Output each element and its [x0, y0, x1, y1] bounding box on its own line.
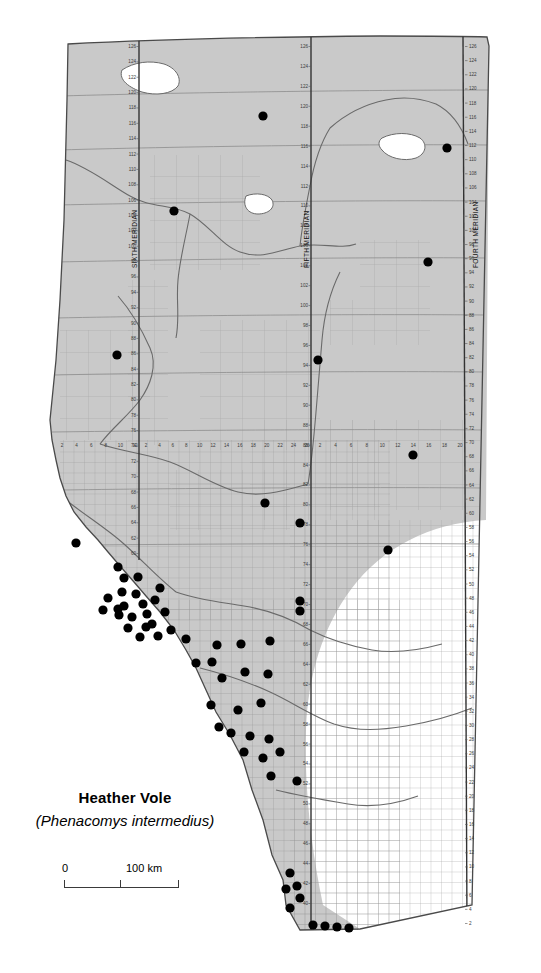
occurrence-dot: [113, 604, 122, 613]
occurrence-dot: [236, 639, 245, 648]
occurrence-dot: [332, 922, 341, 931]
township-number: 52: [303, 781, 309, 786]
township-number: 66: [303, 642, 309, 647]
township-number: 62: [469, 497, 475, 502]
township-number: 28: [469, 737, 475, 742]
township-number: 110: [469, 157, 477, 162]
occurrence-dot: [142, 609, 151, 618]
township-number: 86: [131, 351, 137, 356]
occurrence-dot: [191, 658, 200, 667]
occurrence-dot: [258, 753, 267, 762]
township-number: 8: [469, 879, 472, 884]
township-number: 104: [469, 200, 477, 205]
township-number: 108: [300, 223, 308, 228]
township-number: 46: [469, 610, 475, 615]
township-number: 12: [469, 850, 475, 855]
township-number: 106: [128, 198, 136, 203]
township-number: 54: [303, 761, 309, 766]
township-number: 96: [303, 343, 309, 348]
occurrence-dot: [119, 573, 128, 582]
township-number: 68: [469, 454, 475, 459]
occurrence-dot: [423, 257, 432, 266]
range-number: 8: [185, 443, 188, 448]
township-number: 84: [469, 341, 475, 346]
township-number: 82: [131, 382, 137, 387]
township-number: 82: [469, 355, 475, 360]
occurrence-dot: [383, 545, 392, 554]
township-number: 98: [131, 259, 137, 264]
township-number: 72: [303, 582, 309, 587]
range-number: 16: [237, 443, 243, 448]
range-number: 16: [426, 443, 432, 448]
township-number: 108: [469, 171, 477, 176]
scale-max-label: 100 km: [126, 862, 162, 874]
township-number: 60: [303, 702, 309, 707]
township-number: 6: [469, 893, 472, 898]
range-number: 12: [132, 443, 138, 448]
township-number: 30: [469, 723, 475, 728]
range-number: 14: [224, 443, 230, 448]
township-number: 88: [303, 423, 309, 428]
township-number: 72: [469, 426, 475, 431]
township-number: 114: [469, 129, 477, 134]
township-number: 86: [469, 327, 475, 332]
township-number: 44: [303, 861, 309, 866]
township-number: 102: [469, 214, 477, 219]
township-number: 114: [129, 136, 137, 141]
occurrence-dot: [147, 619, 156, 628]
township-number: 40: [469, 652, 475, 657]
township-number: 24: [469, 765, 475, 770]
township-number: 60: [469, 511, 475, 516]
occurrence-dot: [206, 700, 215, 709]
township-number: 122: [469, 72, 477, 77]
range-number: 6: [90, 443, 93, 448]
occurrence-dot: [214, 722, 223, 731]
occurrence-dot: [98, 605, 107, 614]
township-number: 120: [300, 104, 308, 109]
township-number: 100: [300, 303, 308, 308]
township-number: 126: [300, 44, 308, 49]
occurrence-dot: [127, 612, 136, 621]
township-number: 76: [131, 428, 137, 433]
occurrence-dot: [233, 705, 242, 714]
township-number: 62: [303, 682, 309, 687]
township-number: 34: [469, 695, 475, 700]
township-number: 92: [469, 284, 475, 289]
township-number: 114: [301, 164, 309, 169]
occurrence-dot: [295, 518, 304, 527]
township-number: 52: [469, 567, 475, 572]
occurrence-dot: [344, 923, 353, 932]
township-number: 10: [469, 864, 475, 869]
occurrence-dot: [135, 632, 144, 641]
township-number: 54: [469, 553, 475, 558]
township-number: 22: [469, 780, 475, 785]
range-number: 4: [158, 443, 161, 448]
range-number: 14: [411, 443, 417, 448]
range-number: 12: [395, 443, 401, 448]
township-number: 124: [128, 59, 136, 64]
township-number: 106: [469, 185, 477, 190]
township-number: 56: [469, 539, 475, 544]
occurrence-dot: [266, 771, 275, 780]
township-number: 112: [469, 143, 477, 148]
township-number: 18: [469, 808, 475, 813]
township-number: 120: [128, 90, 136, 95]
range-number: 24: [291, 443, 297, 448]
township-number: 94: [303, 363, 309, 368]
township-number: 70: [131, 474, 137, 479]
occurrence-dot: [285, 868, 294, 877]
township-number: 42: [469, 638, 475, 643]
township-number: 92: [303, 383, 309, 388]
occurrence-dot: [313, 355, 322, 364]
species-common-name: Heather Vole: [0, 788, 250, 808]
range-number: 12: [211, 443, 217, 448]
occurrence-dot: [150, 595, 159, 604]
occurrence-dot: [240, 667, 249, 676]
range-number: 26: [304, 443, 310, 448]
occurrence-dot: [263, 669, 272, 678]
occurrence-dot: [212, 640, 221, 649]
occurrence-dot: [442, 143, 451, 152]
township-number: 104: [128, 213, 136, 218]
township-number: 44: [469, 624, 475, 629]
township-number: 82: [303, 482, 309, 487]
